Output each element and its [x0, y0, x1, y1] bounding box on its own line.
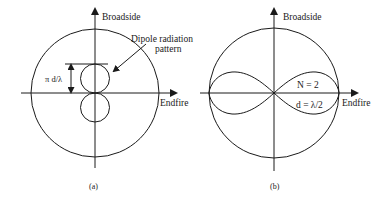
dimension-label: π d/λ [45, 74, 63, 84]
param-d-label: d = λ/2 [296, 100, 323, 110]
panel-b-broadside-label: Broadside [283, 12, 322, 22]
panel-a-endfire-label: Endfire [160, 98, 189, 108]
panel-a-broadside-label: Broadside [102, 12, 141, 22]
diagram-canvas: Broadside Endfire Dipole radiation patte… [0, 0, 389, 201]
annotation-line-1: Dipole radiation [131, 34, 193, 44]
panel-b-caption: (b) [270, 182, 280, 191]
annotation-leader-arrow [114, 44, 146, 71]
panel-a [21, 9, 176, 168]
panel-b [200, 9, 357, 171]
panel-a-caption: (a) [89, 182, 98, 191]
param-n-label: N = 2 [297, 80, 319, 90]
panel-b-endfire-label: Endfire [342, 98, 371, 108]
annotation-line-2: pattern [155, 44, 182, 54]
